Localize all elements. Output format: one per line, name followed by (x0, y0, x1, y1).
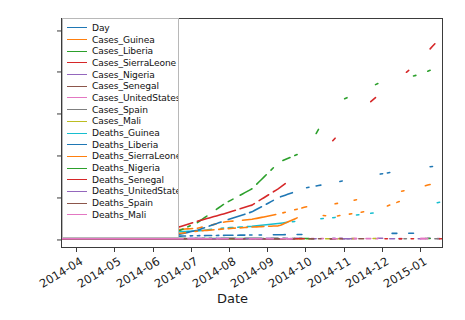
series-line-cases-liberia (216, 204, 223, 209)
series-line-cases-guinea (425, 184, 430, 185)
legend-label: Deaths_SierraLeone (92, 151, 179, 161)
legend-color-swatch (67, 51, 87, 52)
legend-color-swatch (67, 203, 87, 204)
x-tick-mark (267, 248, 268, 252)
x-tick-mark (153, 248, 154, 252)
legend-label: Deaths_Nigeria (92, 163, 160, 173)
legend-label: Cases_UnitedStates (92, 93, 179, 103)
series-line-deaths-liberia (266, 200, 273, 204)
series-line-deaths-sierraleone (361, 212, 363, 213)
x-axis-title: Date (0, 291, 465, 306)
series-line-cases-sierraleone (259, 195, 269, 201)
legend-label: Deaths_Spain (92, 198, 153, 208)
ebola-line-chart-figure: 0200040006000800010000 2014-042014-05201… (0, 0, 465, 320)
legend-item: Cases_Guinea (67, 34, 174, 46)
series-line-deaths-liberia (209, 222, 221, 226)
chart-legend: DayCases_GuineaCases_LiberiaCases_Sierra… (62, 18, 179, 238)
legend-item: Deaths_SierraLeone (67, 151, 174, 163)
legend-label: Deaths_UnitedStates (92, 186, 179, 196)
legend-item: Cases_SierraLeone (67, 57, 174, 69)
series-line-deaths-sierraleone (202, 230, 214, 231)
legend-color-swatch (67, 74, 87, 75)
legend-item: Deaths_Mali (67, 209, 174, 221)
legend-label: Cases_Mali (92, 116, 141, 126)
series-line-cases-sierraleone (371, 98, 376, 102)
legend-color-swatch (67, 144, 87, 145)
x-tick-mark (191, 248, 192, 252)
series-line-cases-liberia (240, 189, 252, 195)
series-line-cases-guinea (283, 212, 285, 213)
legend-item: Deaths_Senegal (67, 174, 174, 186)
x-tick-mark (420, 248, 421, 252)
legend-color-swatch (67, 156, 87, 157)
legend-color-swatch (67, 62, 87, 63)
legend-color-swatch (67, 86, 87, 87)
x-tick-mark (382, 248, 383, 252)
x-tick-mark (229, 248, 230, 252)
legend-label: Deaths_Mali (92, 210, 146, 220)
series-line-cases-liberia (188, 226, 190, 227)
x-tick-mark (305, 248, 306, 252)
series-line-deaths-liberia (250, 207, 262, 213)
legend-item: Cases_Nigeria (67, 69, 174, 81)
legend-label: Cases_Liberia (92, 46, 153, 56)
legend-item: Deaths_Guinea (67, 127, 174, 139)
legend-item: Cases_Senegal (67, 80, 174, 92)
series-line-cases-liberia (228, 199, 233, 202)
legend-label: Day (92, 23, 110, 33)
legend-item: Deaths_Nigeria (67, 162, 174, 174)
series-line-cases-sierraleone (430, 44, 435, 49)
series-line-cases-liberia (345, 98, 347, 99)
legend-item: Cases_Mali (67, 116, 174, 128)
series-line-deaths-liberia (281, 193, 293, 197)
legend-label: Cases_Senegal (92, 81, 159, 91)
legend-label: Deaths_Senegal (92, 175, 164, 185)
legend-color-swatch (67, 191, 87, 192)
x-tick-mark (344, 248, 345, 252)
legend-item: Deaths_Spain (67, 197, 174, 209)
series-line-deaths-sierraleone (387, 205, 389, 206)
series-line-cases-guinea (197, 227, 202, 228)
series-line-deaths-sierraleone (397, 201, 399, 202)
series-line-cases-sierraleone (406, 70, 408, 72)
legend-color-swatch (67, 179, 87, 180)
series-line-deaths-liberia (316, 185, 321, 186)
x-tick-mark (76, 248, 77, 252)
legend-item: Day (67, 22, 174, 34)
series-line-cases-sierraleone (333, 138, 335, 141)
legend-label: Cases_SierraLeone (92, 58, 176, 68)
legend-color-swatch (67, 133, 87, 134)
series-line-cases-sierraleone (273, 184, 285, 192)
legend-label: Deaths_Liberia (92, 140, 158, 150)
legend-label: Cases_Spain (92, 105, 148, 115)
legend-color-swatch (67, 109, 87, 110)
legend-item: Deaths_UnitedStates (67, 186, 174, 198)
series-line-cases-liberia (316, 129, 318, 133)
legend-item: Cases_Spain (67, 104, 174, 116)
series-line-cases-liberia (257, 175, 267, 184)
series-line-cases-liberia (283, 158, 290, 161)
legend-color-swatch (67, 27, 87, 28)
legend-item: Cases_UnitedStates (67, 92, 174, 104)
legend-color-swatch (67, 97, 87, 98)
series-line-cases-liberia (295, 155, 297, 156)
x-tick-mark (114, 248, 115, 252)
series-line-cases-liberia (376, 84, 378, 85)
legend-color-swatch (67, 168, 87, 169)
series-line-cases-guinea (243, 215, 276, 221)
legend-color-swatch (67, 121, 87, 122)
series-line-cases-guinea (302, 207, 307, 208)
series-line-cases-liberia (414, 75, 416, 76)
series-line-deaths-liberia (228, 214, 245, 219)
legend-color-swatch (67, 214, 87, 215)
legend-item: Cases_Liberia (67, 45, 174, 57)
legend-color-swatch (67, 39, 87, 40)
series-line-cases-liberia (271, 168, 273, 170)
legend-label: Cases_Guinea (92, 35, 155, 45)
series-line-cases-liberia (428, 70, 430, 71)
series-line-cases-guinea (224, 221, 234, 222)
series-line-cases-guinea (295, 209, 297, 210)
legend-label: Deaths_Guinea (92, 128, 160, 138)
series-line-deaths-sierraleone (252, 227, 264, 228)
legend-item: Deaths_Liberia (67, 139, 174, 151)
